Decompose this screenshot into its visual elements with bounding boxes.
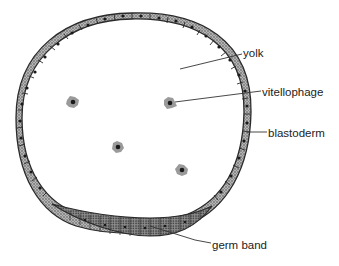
blastoderm-layer (16, 13, 251, 233)
label-blastoderm: blastoderm (268, 128, 325, 140)
vitellophage-cell (164, 97, 177, 109)
label-vitellophage: vitellophage (262, 87, 323, 99)
egg-diagram: yolk vitellophage blastoderm germ band (0, 0, 339, 266)
vitellophage-cell (66, 96, 79, 108)
label-yolk: yolk (243, 48, 263, 60)
leader-lines (150, 54, 267, 243)
vitellophages (66, 96, 188, 176)
label-germ-band: germ band (212, 240, 267, 252)
vitellophage-cell (112, 141, 124, 153)
vitellophage-cell (175, 164, 188, 176)
